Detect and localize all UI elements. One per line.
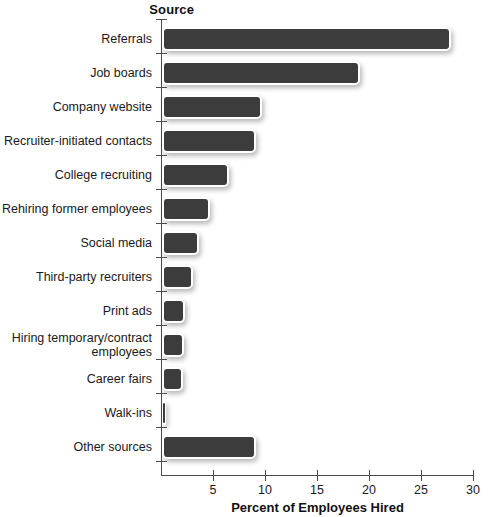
- bar: [162, 435, 256, 459]
- bar-chart: Source ReferralsJob boardsCompany websit…: [0, 0, 488, 517]
- y-axis-title: Source: [0, 2, 194, 17]
- bar: [162, 95, 262, 119]
- x-tick-label: 5: [193, 483, 233, 497]
- bar: [162, 163, 229, 187]
- bar-fill: [164, 199, 208, 219]
- y-tick: [156, 461, 167, 462]
- x-tick: [265, 470, 266, 481]
- bar-category-label: Job boards: [0, 56, 152, 90]
- bar-fill: [164, 267, 191, 287]
- y-tick: [156, 87, 167, 88]
- plot-area: ReferralsJob boardsCompany websiteRecrui…: [161, 19, 473, 475]
- bar-category-label: Social media: [0, 226, 152, 260]
- y-tick: [156, 427, 167, 428]
- bar-category-label: Print ads: [0, 294, 152, 328]
- bar-category-label: Company website: [0, 90, 152, 124]
- y-tick: [156, 257, 167, 258]
- x-tick: [369, 470, 370, 481]
- x-tick-label: 15: [297, 483, 337, 497]
- bar-category-label: Third-party recruiters: [0, 260, 152, 294]
- y-tick: [156, 223, 167, 224]
- bar: [162, 231, 199, 255]
- x-tick: [473, 470, 474, 481]
- bar-category-label: Referrals: [0, 22, 152, 56]
- bar-fill: [164, 131, 254, 151]
- bar-category-label: Recruiter-initiated contacts: [0, 124, 152, 158]
- bar-category-label: Career fairs: [0, 362, 152, 396]
- bar-category-label: Rehiring former employees: [0, 192, 152, 226]
- bar: [162, 401, 166, 425]
- y-tick: [156, 393, 167, 394]
- y-tick: [156, 19, 167, 20]
- bar-category-label: Walk-ins: [0, 396, 152, 430]
- bar: [162, 129, 256, 153]
- bar-fill: [163, 403, 165, 423]
- y-tick: [156, 189, 167, 190]
- bar: [162, 197, 210, 221]
- y-tick: [156, 155, 167, 156]
- bar-category-label: College recruiting: [0, 158, 152, 192]
- bar: [162, 367, 183, 391]
- bar-fill: [164, 369, 181, 389]
- x-tick: [213, 470, 214, 481]
- x-tick-label: 30: [453, 483, 488, 497]
- bar-category-label: Other sources: [0, 430, 152, 464]
- x-tick: [421, 470, 422, 481]
- bar: [162, 333, 184, 357]
- bar: [162, 265, 193, 289]
- bar-fill: [164, 165, 227, 185]
- y-tick: [156, 53, 167, 54]
- x-axis-title: Percent of Employees Hired: [161, 500, 474, 515]
- y-tick: [156, 291, 167, 292]
- x-tick-label: 10: [245, 483, 285, 497]
- bar: [162, 27, 451, 51]
- x-tick-label: 20: [349, 483, 389, 497]
- bar-category-label: Hiring temporary/contract employees: [0, 328, 152, 362]
- bar: [162, 61, 360, 85]
- x-tick-label: 25: [401, 483, 441, 497]
- bar-fill: [164, 63, 358, 83]
- bar-fill: [164, 29, 449, 49]
- x-tick: [317, 470, 318, 481]
- bar: [162, 299, 185, 323]
- y-tick: [156, 359, 167, 360]
- y-tick: [156, 325, 167, 326]
- bar-fill: [164, 97, 260, 117]
- bar-fill: [164, 233, 197, 253]
- y-tick: [156, 121, 167, 122]
- bar-fill: [164, 335, 182, 355]
- bar-fill: [164, 301, 183, 321]
- bar-fill: [164, 437, 254, 457]
